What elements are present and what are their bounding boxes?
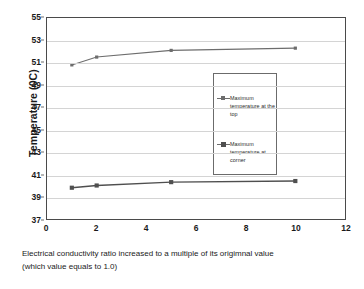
gridline bbox=[47, 176, 345, 177]
gridline bbox=[47, 108, 345, 109]
y-tick-mark bbox=[41, 129, 44, 130]
data-point-marker bbox=[170, 49, 173, 52]
plot-area: Maximum temperature at the top Maximum t… bbox=[46, 17, 346, 220]
y-tick-label: 41 bbox=[1, 170, 41, 180]
x-tick-label: 6 bbox=[185, 223, 207, 233]
data-point-marker bbox=[169, 180, 173, 184]
y-tick-label: 39 bbox=[1, 192, 41, 202]
x-axis-tick-labels: 024681012 bbox=[46, 221, 346, 235]
x-tick-label: 4 bbox=[135, 223, 157, 233]
chart-figure: Temperature (0C) 37394143454749515355 Ma… bbox=[0, 0, 364, 289]
y-tick-label: 55 bbox=[1, 12, 41, 22]
legend-item-top: Maximum temperature at the top bbox=[217, 94, 277, 119]
x-tick-label: 8 bbox=[235, 223, 257, 233]
y-tick-mark bbox=[41, 174, 44, 175]
legend-label-corner: Maximum temperature at corner bbox=[230, 140, 277, 165]
y-tick-mark bbox=[41, 17, 44, 18]
gridline bbox=[47, 63, 345, 64]
gridline bbox=[47, 86, 345, 87]
y-tick-mark bbox=[41, 197, 44, 198]
data-point-marker bbox=[294, 47, 297, 50]
gridline bbox=[47, 131, 345, 132]
y-axis-tick-labels: 37394143454749515355 bbox=[0, 0, 44, 289]
data-point-marker bbox=[95, 183, 99, 187]
y-tick-label: 45 bbox=[1, 125, 41, 135]
legend-item-corner: Maximum temperature at corner bbox=[217, 140, 277, 165]
y-tick-label: 53 bbox=[1, 35, 41, 45]
legend-marker-diamond-icon bbox=[217, 94, 230, 103]
series-layer bbox=[47, 18, 345, 219]
x-tick-label: 10 bbox=[285, 223, 307, 233]
gridline bbox=[47, 153, 345, 154]
data-point-marker bbox=[95, 55, 98, 58]
data-point-marker bbox=[293, 179, 297, 183]
x-tick-label: 0 bbox=[35, 223, 57, 233]
x-tick-label: 2 bbox=[85, 223, 107, 233]
legend-label-top: Maximum temperature at the top bbox=[230, 94, 277, 119]
y-tick-mark bbox=[41, 39, 44, 40]
gridline bbox=[47, 41, 345, 42]
x-axis-title-line1: Electrical conductivity ratio increased … bbox=[22, 249, 274, 258]
x-axis-title: Electrical conductivity ratio increased … bbox=[22, 248, 352, 273]
legend-marker-square-icon bbox=[217, 140, 230, 149]
y-tick-mark bbox=[41, 220, 44, 221]
gridline bbox=[47, 198, 345, 199]
y-tick-mark bbox=[41, 62, 44, 63]
y-tick-label: 43 bbox=[1, 147, 41, 157]
y-tick-label: 49 bbox=[1, 80, 41, 90]
series-line bbox=[72, 181, 295, 188]
y-tick-label: 51 bbox=[1, 57, 41, 67]
y-tick-label: 47 bbox=[1, 102, 41, 112]
x-axis-title-line2: (which value equals to 1.0) bbox=[22, 261, 352, 274]
y-tick-mark bbox=[41, 107, 44, 108]
y-tick-mark bbox=[41, 152, 44, 153]
chart-legend: Maximum temperature at the top Maximum t… bbox=[213, 73, 277, 175]
y-tick-mark bbox=[41, 84, 44, 85]
data-point-marker bbox=[70, 186, 74, 190]
x-tick-label: 12 bbox=[335, 223, 357, 233]
